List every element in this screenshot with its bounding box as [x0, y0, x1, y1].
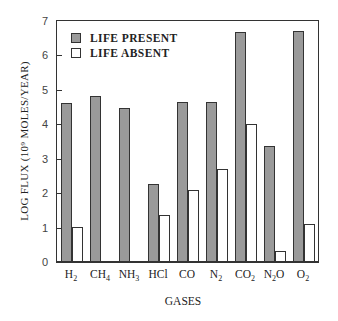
bar-nh3-present	[119, 108, 130, 261]
bar-ch4-present	[90, 96, 101, 261]
x-tick-label: O2	[283, 268, 323, 283]
legend-swatch-absent	[71, 48, 81, 58]
bar-h2-present	[61, 103, 72, 261]
legend-swatch-present	[71, 33, 81, 43]
bar-co2-present	[235, 32, 246, 261]
y-tick-label: 6	[28, 49, 48, 61]
legend-item-present: LIFE PRESENT	[71, 30, 178, 45]
legend: LIFE PRESENT LIFE ABSENT	[71, 30, 178, 60]
bar-h2-absent	[72, 227, 83, 261]
bar-hcl-absent	[159, 215, 170, 261]
y-tick-label: 0	[28, 256, 48, 268]
bar-n2-absent	[217, 169, 228, 261]
y-tick-label: 2	[28, 187, 48, 199]
bar-o2-absent	[304, 224, 315, 261]
y-tick-label: 5	[28, 84, 48, 96]
legend-label-present: LIFE PRESENT	[90, 32, 178, 44]
y-tick-label: 1	[28, 222, 48, 234]
y-tick-label: 3	[28, 153, 48, 165]
y-tick-mark	[57, 90, 62, 91]
x-axis-label: GASES	[0, 295, 338, 307]
plot-area: LIFE PRESENT LIFE ABSENT	[56, 20, 319, 263]
bar-co-present	[177, 102, 188, 261]
bar-o2-present	[293, 31, 304, 261]
y-tick-label: 4	[28, 118, 48, 130]
legend-label-absent: LIFE ABSENT	[90, 47, 170, 59]
bar-n2o-absent	[275, 251, 286, 261]
bar-n2o-present	[264, 146, 275, 261]
y-tick-mark	[57, 55, 62, 56]
bar-n2-present	[206, 102, 217, 261]
y-tick-label: 7	[28, 15, 48, 27]
legend-item-absent: LIFE ABSENT	[71, 45, 178, 60]
bar-co-absent	[188, 190, 199, 261]
bar-co2-absent	[246, 124, 257, 261]
bar-hcl-present	[148, 184, 159, 261]
